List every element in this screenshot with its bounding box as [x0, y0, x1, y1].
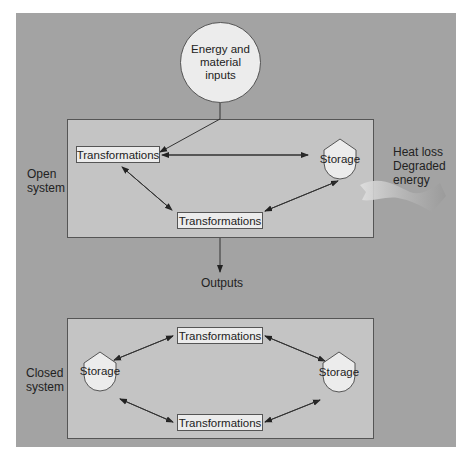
- closed-storage-right-label: Storage: [320, 363, 358, 381]
- closed-storage-left-label: Storage: [81, 362, 119, 380]
- closed-label-line1: Closed: [26, 366, 64, 380]
- open-transformations-bottom: Transformations: [177, 212, 263, 229]
- open-transformations-top: Transformations: [76, 146, 160, 163]
- open-label-line2: system: [27, 181, 65, 195]
- closed-transformations-top: Transformations: [177, 327, 263, 344]
- outputs-label: Outputs: [201, 276, 243, 290]
- heat-loss-line3: energy: [393, 173, 446, 187]
- heat-loss-line1: Heat loss: [393, 145, 446, 159]
- inputs-line2: material: [191, 56, 250, 69]
- closed-system-label: Closed system: [26, 366, 64, 394]
- open-storage-label: Storage: [322, 150, 358, 168]
- closed-label-line2: system: [26, 380, 64, 394]
- closed-transformations-bottom: Transformations: [177, 414, 263, 431]
- heat-loss-line2: Degraded: [393, 159, 446, 173]
- inputs-line3: inputs: [191, 69, 250, 82]
- open-label-line1: Open: [27, 167, 65, 181]
- inputs-node: Energy and material inputs: [180, 22, 261, 103]
- inputs-line1: Energy and: [191, 43, 250, 56]
- open-system-label: Open system: [27, 167, 65, 195]
- heat-loss-label: Heat loss Degraded energy: [393, 145, 446, 187]
